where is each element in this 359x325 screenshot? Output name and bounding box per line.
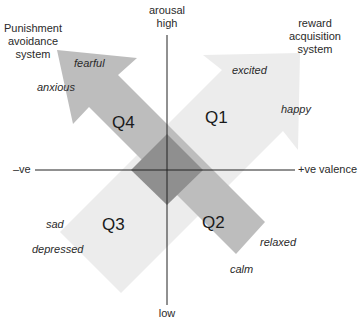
- quadrant-q2-label: Q2: [202, 213, 225, 233]
- punishment-system-label: Punishment avoidance system: [0, 22, 66, 61]
- punishment-line1: Punishment: [0, 22, 66, 35]
- arousal-axis-title: arousal: [142, 4, 192, 17]
- arousal-high-label: high: [142, 17, 192, 30]
- quadrant-q4-label: Q4: [112, 113, 135, 133]
- emotion-anxious: anxious: [37, 81, 75, 94]
- reward-line3: system: [280, 43, 350, 56]
- reward-line2: acquisition: [280, 30, 350, 43]
- valence-negative-label: –ve: [13, 163, 31, 176]
- reward-line1: reward: [280, 17, 350, 30]
- reward-system-label: reward acquisition system: [280, 17, 350, 56]
- quadrant-q1-label: Q1: [205, 108, 228, 128]
- emotion-excited: excited: [232, 64, 267, 77]
- arousal-low-label: low: [142, 307, 192, 320]
- valence-positive-label: +ve valence: [298, 163, 357, 176]
- emotion-fearful: fearful: [74, 57, 105, 70]
- emotion-sad: sad: [46, 218, 64, 231]
- punishment-line2: avoidance: [0, 35, 66, 48]
- emotion-depressed: depressed: [32, 243, 83, 256]
- punishment-line3: system: [0, 48, 66, 61]
- emotion-happy: happy: [281, 103, 311, 116]
- quadrant-q3-label: Q3: [102, 215, 125, 235]
- emotion-relaxed: relaxed: [260, 236, 296, 249]
- emotion-calm: calm: [230, 263, 253, 276]
